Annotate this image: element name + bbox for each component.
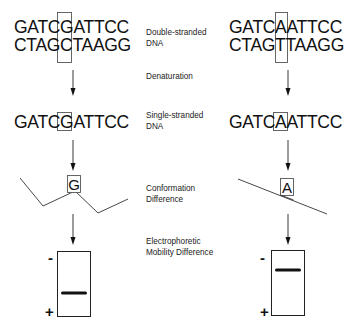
step-label-line: Conformation [146, 183, 195, 194]
step-label-line: Difference [146, 194, 195, 205]
right-ds-top-strand: GATCAATTCC [229, 19, 342, 36]
step-label-denaturation: Denaturation [146, 71, 193, 82]
gel-lane-right [272, 251, 305, 316]
step-label-line: Double-stranded [146, 27, 207, 38]
left-ds-top-strand: GATCGATTCC [14, 19, 129, 36]
left-ds-bottom-strand: CTAGCTAAGG [14, 37, 131, 54]
arrow-denaturation-left [71, 70, 76, 96]
arrow-conformation-left [71, 140, 76, 171]
gel-lane-left [58, 252, 91, 317]
step-label-conformation: Conformation Difference [146, 183, 195, 205]
step-label-line: DNA [146, 38, 207, 49]
step-label-line: Single-stranded [146, 110, 203, 121]
right-single-strand: GATCAATTCC [229, 114, 342, 131]
arrow-denaturation-right [286, 70, 291, 96]
arrow-conformation-right [286, 140, 291, 171]
step-label-line: DNA [146, 121, 203, 132]
right-gel-positive-sign: + [260, 304, 269, 319]
arrow-mobility-left [71, 214, 76, 245]
left-gel-negative-sign: - [48, 250, 53, 265]
left-variant-base: G [67, 177, 81, 192]
left-gel-positive-sign: + [45, 304, 54, 319]
right-ds-bottom-strand: CTAGTTAAGG [229, 37, 344, 54]
left-single-strand: GATCGATTCC [14, 114, 129, 131]
step-label-line: Electrophoretic [146, 236, 213, 247]
arrow-mobility-right [286, 214, 291, 245]
step-label-line: Mobility Difference [146, 247, 213, 258]
gel-band-left [61, 292, 87, 295]
right-variant-base: A [280, 180, 294, 195]
step-label-electrophoretic: Electrophoretic Mobility Difference [146, 236, 213, 258]
step-label-line: Denaturation [146, 71, 193, 82]
step-label-single-stranded: Single-stranded DNA [146, 110, 203, 132]
right-gel-negative-sign: - [260, 250, 265, 265]
gel-band-right [275, 269, 301, 272]
step-label-double-stranded: Double-stranded DNA [146, 27, 207, 49]
